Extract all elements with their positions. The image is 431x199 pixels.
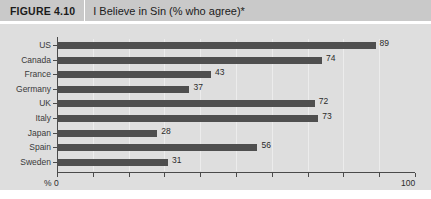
bar-row: US89 — [0, 39, 431, 53]
bar-row: Japan28 — [0, 127, 431, 141]
x-axis-tick — [343, 173, 344, 177]
x-axis-tick — [57, 173, 58, 177]
bar — [57, 159, 168, 166]
category-label: US — [39, 40, 51, 50]
category-label: Spain — [29, 142, 51, 152]
bar-value-label: 28 — [161, 126, 170, 136]
bar-value-label: 37 — [193, 82, 202, 92]
category-label: Japan — [28, 128, 51, 138]
x-axis-tick — [164, 173, 165, 177]
category-label: Italy — [35, 113, 51, 123]
x-axis-tick — [415, 173, 416, 177]
chart-panel: US89Canada74France43Germany37UK72Italy73… — [0, 24, 431, 190]
bar-value-label: 43 — [215, 67, 224, 77]
bar-row: UK72 — [0, 97, 431, 111]
bar — [57, 42, 376, 49]
x-axis-tick — [200, 173, 201, 177]
category-label: Sweden — [20, 157, 51, 167]
bar — [57, 100, 315, 107]
bar-row: France43 — [0, 68, 431, 82]
x-axis-tick — [379, 173, 380, 177]
bar-row: Spain56 — [0, 141, 431, 155]
bar-value-label: 72 — [319, 96, 328, 106]
bar-value-label: 73 — [322, 111, 331, 121]
figure-title: I Believe in Sin (% who agree)* — [85, 5, 245, 17]
bar — [57, 130, 157, 137]
x-axis-tick — [236, 173, 237, 177]
x-axis-tick — [308, 173, 309, 177]
bar-row: Germany37 — [0, 83, 431, 97]
bar-value-label: 56 — [261, 140, 270, 150]
bar-value-label: 31 — [172, 155, 181, 165]
bar-row: Canada74 — [0, 54, 431, 68]
x-axis-max-label: 100 — [401, 178, 415, 188]
category-label: Germany — [16, 84, 51, 94]
category-label: France — [25, 69, 51, 79]
bar-value-label: 74 — [326, 53, 335, 63]
bar-row: Italy73 — [0, 112, 431, 126]
x-axis-tick — [272, 173, 273, 177]
bar-value-label: 89 — [380, 38, 389, 48]
figure-container: FIGURE 4.10 I Believe in Sin (% who agre… — [0, 0, 431, 199]
bar — [57, 115, 318, 122]
bar-row: Sweden31 — [0, 156, 431, 170]
bar — [57, 71, 211, 78]
figure-header: FIGURE 4.10 I Believe in Sin (% who agre… — [0, 0, 431, 21]
category-label: Canada — [21, 55, 51, 65]
bar — [57, 57, 322, 64]
category-label: UK — [39, 98, 51, 108]
x-axis-min-label: 0 — [54, 178, 59, 188]
x-axis-percent-symbol: % — [44, 178, 52, 188]
bar — [57, 144, 257, 151]
x-axis-tick — [93, 173, 94, 177]
figure-number: FIGURE 4.10 — [0, 5, 75, 17]
x-axis-tick — [129, 173, 130, 177]
bar — [57, 86, 189, 93]
